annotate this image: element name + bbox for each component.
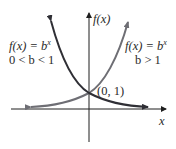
decreasing-curve-equation-text: f(x) = b [9, 39, 47, 53]
decreasing-curve-exponent: x [47, 38, 51, 47]
increasing-curve-exponent: x [163, 38, 167, 47]
increasing-curve-equation: f(x) = bx [125, 39, 167, 53]
intercept-point-label: (0, 1) [97, 84, 124, 98]
decreasing-curve-condition: 0 < b < 1 [9, 53, 54, 67]
increasing-curve-equation-text: f(x) = b [125, 39, 163, 53]
exponential-graph [0, 0, 176, 149]
increasing-curve-condition: b > 1 [135, 53, 161, 67]
x-axis-label: x [159, 114, 165, 128]
y-axis-label: f(x) [93, 12, 110, 26]
decreasing-curve-equation: f(x) = bx [9, 39, 51, 53]
